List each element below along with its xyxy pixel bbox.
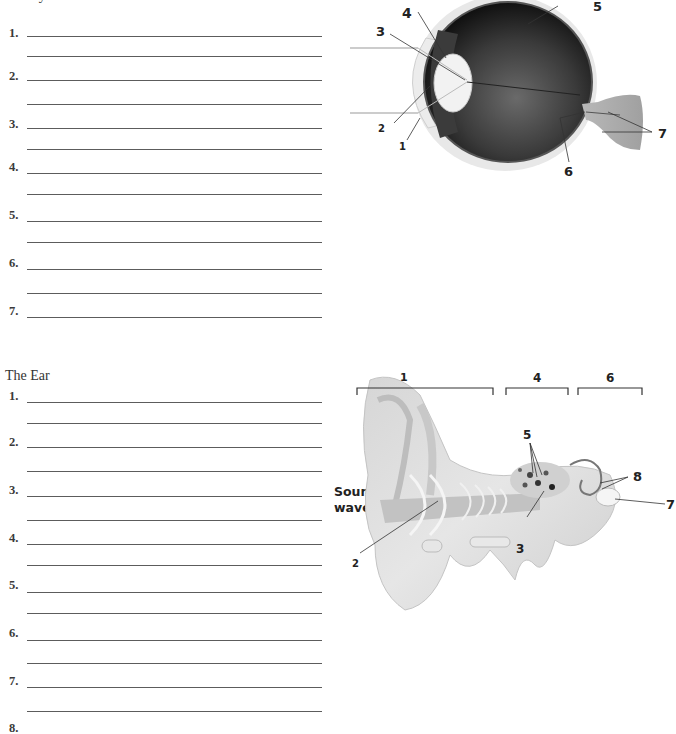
ear-answer-line-5a[interactable] (27, 592, 322, 593)
eye-answer-line-2b[interactable] (27, 104, 322, 105)
eye-answer-line-4b[interactable] (27, 194, 322, 195)
eye-answer-line-5b[interactable] (27, 242, 322, 243)
eye-answer-line-3b[interactable] (27, 149, 322, 150)
ear-answer-line-5b[interactable] (27, 613, 322, 614)
ear-answer-line-6b[interactable] (27, 663, 322, 664)
eye-answer-line-2a[interactable] (27, 80, 322, 81)
ear-answer-line-2b[interactable] (27, 471, 322, 472)
eye-answer-line-6a[interactable] (27, 269, 322, 270)
eye-label-6: 6 (564, 164, 573, 179)
eye-answer-line-3a[interactable] (27, 128, 322, 129)
ear-label-6: 6 (606, 371, 614, 385)
ear-item-number: 8. (9, 721, 18, 734)
eye-label-4: 4 (402, 5, 412, 21)
ear-label-5: 5 (523, 428, 531, 442)
ear-item-number: 6. (9, 626, 18, 641)
ear-answer-line-4a[interactable] (27, 544, 322, 545)
eye-item-number: 7. (9, 304, 18, 319)
ear-label-8: 8 (633, 469, 642, 484)
ear-item-number: 7. (9, 674, 18, 689)
eye-diagram: 4 3 5 2 1 6 7 (340, 0, 676, 190)
ear-diagram: 1 4 6 5 8 7 2 3 (350, 365, 676, 625)
ear-answer-line-7b[interactable] (27, 711, 322, 712)
eye-label-7: 7 (658, 126, 667, 141)
eye-item-number: 2. (9, 69, 18, 84)
ear-item-number: 3. (9, 483, 18, 498)
ear-answer-line-3a[interactable] (27, 496, 322, 497)
eye-item-number: 3. (9, 117, 18, 132)
eye-item-number: 4. (9, 160, 18, 175)
ear-label-3: 3 (516, 542, 524, 556)
ear-label-4: 4 (533, 371, 541, 385)
eye-label-3: 3 (376, 24, 385, 39)
eye-label-2: 2 (378, 123, 385, 134)
eye-item-number: 6. (9, 256, 18, 271)
ear-answer-line-7a[interactable] (27, 687, 322, 688)
eye-item-number: 1. (9, 26, 18, 41)
ear-item-number: 5. (9, 578, 18, 593)
eye-answer-line-6b[interactable] (27, 293, 322, 294)
ear-label-2: 2 (352, 558, 359, 569)
eye-answer-line-7a[interactable] (27, 317, 322, 318)
ear-label-7: 7 (666, 497, 675, 512)
ear-answer-line-4b[interactable] (27, 565, 322, 566)
ear-item-number: 1. (9, 389, 18, 404)
eye-label-5: 5 (593, 0, 602, 14)
ear-answer-line-3b[interactable] (27, 520, 322, 521)
eye-answer-line-1a[interactable] (27, 36, 322, 37)
ear-answer-line-2a[interactable] (27, 447, 322, 448)
eye-answer-line-1b[interactable] (27, 56, 322, 57)
ear-answer-line-1b[interactable] (27, 423, 322, 424)
ear-answer-line-6a[interactable] (27, 640, 322, 641)
ear-label-1: 1 (400, 371, 408, 384)
ear-item-number: 2. (9, 435, 18, 450)
ear-section-title: The Ear (5, 368, 50, 384)
ear-item-number: 4. (9, 531, 18, 546)
eye-label-1: 1 (399, 141, 406, 152)
eye-section-title: The Eye (5, 0, 52, 4)
eye-answer-line-5a[interactable] (27, 221, 322, 222)
eye-item-number: 5. (9, 208, 18, 223)
ear-answer-line-1a[interactable] (27, 402, 322, 403)
eye-answer-line-4a[interactable] (27, 173, 322, 174)
